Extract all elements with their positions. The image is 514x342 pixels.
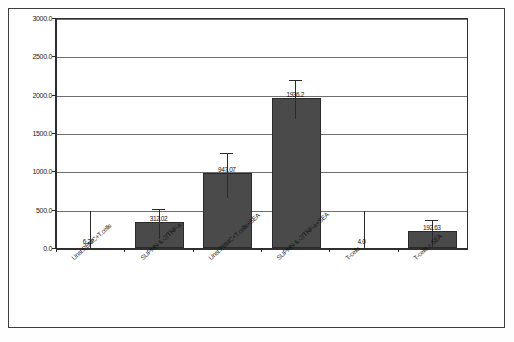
gridline [57, 96, 467, 97]
error-bar [295, 80, 296, 119]
y-axis-label: 3000.0 [8, 15, 52, 22]
y-axis-tick [52, 95, 57, 96]
x-axis-tick [329, 248, 330, 252]
x-axis-tick [56, 248, 57, 252]
chart-figure: 3000.02500.02000.01500.01000.0500.00.06.… [0, 0, 514, 342]
gridline [57, 19, 467, 20]
y-axis-label: 2500.0 [8, 53, 52, 60]
y-axis-label: 1000.0 [8, 168, 52, 175]
error-bar [159, 209, 160, 239]
x-axis-tick [398, 248, 399, 252]
y-axis-tick [52, 133, 57, 134]
y-axis-label: 1500.0 [8, 130, 52, 137]
y-axis-tick [52, 210, 57, 211]
gridline [57, 211, 467, 212]
x-axis-tick [261, 248, 262, 252]
y-axis-tick [52, 171, 57, 172]
y-axis-tick [52, 56, 57, 57]
gridline [57, 172, 467, 173]
bar-value-label: 312.02 [150, 215, 167, 222]
bar-value-label: 1936.2 [286, 91, 303, 98]
y-axis-label: 500.0 [8, 206, 52, 213]
bar-value-label: 4.0 [358, 238, 366, 245]
gridline [57, 134, 467, 135]
error-bar-cap [152, 209, 165, 210]
bar-value-label: 192.63 [423, 224, 440, 231]
error-bar-cap [289, 80, 302, 81]
y-axis-label: 0.0 [8, 245, 52, 252]
error-bar [227, 153, 228, 197]
x-axis-tick [193, 248, 194, 252]
error-bar-cap [425, 220, 438, 221]
y-axis-label: 2000.0 [8, 91, 52, 98]
x-axis-tick [124, 248, 125, 252]
error-bar-cap [220, 153, 233, 154]
gridline [57, 57, 467, 58]
bar-value-label: 947.07 [218, 166, 235, 173]
y-axis-tick [52, 18, 57, 19]
plot-area [56, 18, 468, 250]
